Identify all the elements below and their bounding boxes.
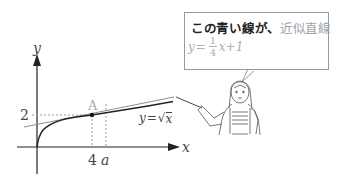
bubble-equation: y = 1 4 x+1 — [188, 35, 243, 58]
frac-denominator: 4 — [210, 47, 216, 58]
x-axis-label: x — [182, 139, 190, 155]
point-a-marker — [90, 113, 94, 117]
speech-bubble: この青い線が、近似直線 y = 1 4 x+1 — [184, 12, 329, 70]
diagram-canvas: y x 2 4 a A y = √ x この青い線が、近似直線 y = 1 4 … — [0, 0, 344, 185]
x-tick-4: 4 — [88, 152, 97, 168]
y-tick-2: 2 — [20, 107, 29, 123]
frac-numerator: 1 — [210, 35, 216, 46]
bubble-text-highlight: 近似直線 — [280, 21, 331, 36]
eq-rest: x+1 — [219, 40, 243, 54]
x-axis-arrow-icon — [168, 143, 180, 151]
eq-equals: = — [196, 40, 206, 54]
curve-label: y = √ x — [139, 111, 172, 125]
curve-label-equals: = — [147, 111, 157, 125]
curve-label-lhs: y — [139, 111, 146, 125]
teacher-illustration — [176, 81, 260, 135]
eq-fraction: 1 4 — [209, 35, 217, 58]
y-axis — [33, 54, 41, 174]
eq-lhs: y — [188, 40, 195, 54]
bubble-text-main: この青い線が、 — [191, 21, 280, 36]
x-tick-a: a — [101, 152, 109, 168]
x-axis — [17, 143, 180, 151]
sqrt-icon: √ — [158, 111, 166, 125]
y-axis-label: y — [33, 40, 41, 56]
point-a-label: A — [88, 98, 97, 113]
curve-label-arg: x — [166, 112, 173, 125]
